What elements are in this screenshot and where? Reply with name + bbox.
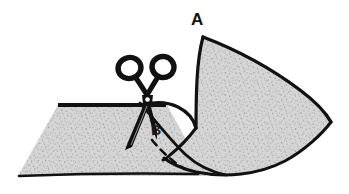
scissors-left-shank xyxy=(136,78,147,95)
upper-fabric-flap xyxy=(140,30,340,185)
scissors-right-ring xyxy=(150,54,176,79)
upper-flap-texture xyxy=(160,30,340,185)
scissors-pivot-screw xyxy=(145,97,150,102)
label-b: B xyxy=(151,123,162,138)
illustration-canvas: A B xyxy=(0,0,349,194)
scissors-cutting-fabric-illustration xyxy=(0,0,349,194)
scissors-right-shank xyxy=(147,77,158,95)
label-a: A xyxy=(191,11,203,28)
scissors-left-ring xyxy=(116,55,143,81)
